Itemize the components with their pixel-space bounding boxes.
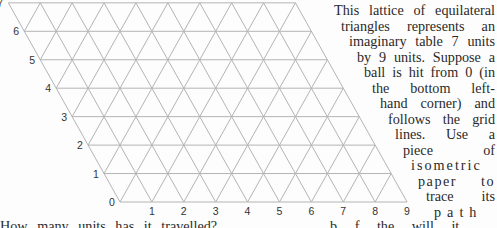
grid-line (200, 3, 312, 202)
triangle-lattice: 01234567123456789 (0, 0, 497, 228)
grid-line (168, 3, 280, 202)
column-label: 7 (340, 205, 346, 217)
column-label: 9 (404, 205, 410, 217)
row-label: 1 (93, 168, 99, 180)
grid-line (8, 3, 120, 202)
row-label: 3 (61, 111, 67, 123)
row-label: 4 (45, 82, 51, 94)
column-label: 8 (372, 205, 378, 217)
row-label: 7 (0, 0, 3, 9)
question-right: b f the will it (330, 218, 459, 228)
grid-line (24, 3, 40, 31)
column-label: 2 (181, 205, 187, 217)
row-label: 2 (77, 139, 83, 151)
grid-line (232, 3, 344, 202)
grid-line (56, 3, 104, 88)
grid-line (248, 60, 328, 202)
grid-line (311, 117, 359, 202)
column-label: 1 (149, 205, 155, 217)
column-label: 3 (213, 205, 219, 217)
grid-line (88, 3, 168, 145)
grid-line (375, 174, 391, 202)
grid-line (104, 3, 216, 202)
column-label: 5 (277, 205, 283, 217)
column-label: 6 (308, 205, 314, 217)
grid-line (264, 3, 376, 202)
row-label: 6 (13, 25, 19, 37)
clipped-question-line: How many units has it travelled? b f the… (0, 218, 497, 228)
grid-line (152, 3, 264, 202)
row-label: 5 (29, 54, 35, 66)
row-label: 0 (109, 196, 115, 208)
question-left: How many units has it travelled? (0, 218, 217, 228)
grid-line (295, 3, 407, 202)
grid-line (72, 3, 184, 202)
grid-line (184, 3, 296, 202)
grid-line (120, 3, 232, 202)
column-label: 4 (245, 205, 251, 217)
grid-line (136, 3, 248, 202)
